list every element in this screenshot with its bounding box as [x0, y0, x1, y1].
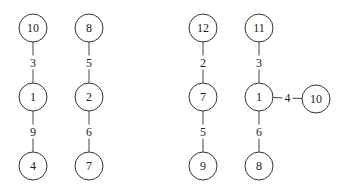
tree-node: 7 — [75, 152, 103, 180]
edge-weight: 5 — [200, 125, 206, 139]
edge-weight: 6 — [86, 125, 92, 139]
node-label: 4 — [30, 159, 36, 173]
tree-node: 8 — [75, 14, 103, 42]
tree-node: 4 — [19, 152, 47, 180]
tree-node: 8 — [245, 152, 273, 180]
node-label: 1 — [30, 90, 36, 104]
node-label: 10 — [310, 92, 322, 106]
edge-weight: 4 — [285, 91, 291, 105]
node-label: 7 — [200, 90, 206, 104]
node-label: 12 — [197, 21, 209, 35]
node-label: 10 — [27, 21, 39, 35]
tree-node: 9 — [189, 152, 217, 180]
tree-node: 10 — [19, 14, 47, 42]
edge-weight: 9 — [30, 125, 36, 139]
diagram-canvas: 39562536410148271279111810 — [0, 0, 347, 193]
edge-weight: 3 — [256, 56, 262, 70]
node-label: 2 — [86, 90, 92, 104]
tree-node: 2 — [75, 83, 103, 111]
tree-node: 7 — [189, 83, 217, 111]
node-label: 1 — [256, 90, 262, 104]
tree-node: 1 — [245, 83, 273, 111]
edge-weight: 2 — [200, 56, 206, 70]
node-label: 7 — [86, 159, 92, 173]
tree-node: 1 — [19, 83, 47, 111]
node-label: 8 — [256, 159, 262, 173]
tree-diagram: 39562536410148271279111810 — [0, 0, 347, 193]
node-label: 8 — [86, 21, 92, 35]
tree-node: 11 — [245, 14, 273, 42]
edge-weight: 3 — [30, 56, 36, 70]
tree-node: 10 — [302, 85, 330, 113]
tree-node: 12 — [189, 14, 217, 42]
edge-weight: 5 — [86, 56, 92, 70]
node-label: 9 — [200, 159, 206, 173]
edge-weight: 6 — [256, 125, 262, 139]
node-label: 11 — [253, 21, 265, 35]
